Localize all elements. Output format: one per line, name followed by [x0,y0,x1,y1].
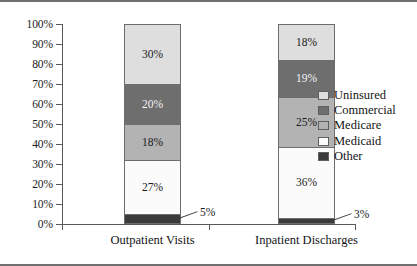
legend-item-label: Medicaid [334,134,381,149]
y-axis-tick [56,204,62,205]
x-axis-tick [355,224,356,230]
y-axis-tick-label: 100% [27,18,53,30]
y-axis-tick-label: 60% [32,98,53,110]
y-axis-tick [56,84,62,85]
y-axis-tick-label: 20% [32,178,53,190]
legend-swatch-icon [318,137,329,146]
bar-segment-value-label: 18% [142,137,163,149]
bar-segment-value-label: 20% [142,99,163,111]
legend-swatch-icon [318,121,329,130]
y-axis-tick-label: 70% [32,78,53,90]
bar-segment-value-label: 19% [296,73,317,85]
legend-item-label: Medicare [334,118,381,133]
y-axis-tick [56,24,62,25]
y-axis-tick-label: 80% [32,58,53,70]
legend-item[interactable]: Uninsured [318,88,396,103]
x-axis-category-label: Outpatient Visits [73,233,233,248]
y-axis-tick [56,144,62,145]
legend-item-label: Uninsured [334,88,386,103]
legend-item[interactable]: Medicare [318,118,396,133]
bar-segment-value-label: 36% [296,177,317,189]
y-axis-tick-label: 30% [32,158,53,170]
y-axis-tick-label: 10% [32,198,53,210]
y-axis-tick [56,104,62,105]
legend-swatch-icon [318,152,329,161]
legend-item-label: Other [334,149,362,164]
bar-segment-uninsured[interactable]: 18% [278,24,335,60]
legend-item[interactable]: Medicaid [318,134,396,149]
y-axis-tick [56,124,62,125]
bar-segment-value-label: 18% [296,37,317,49]
bar-segment-commercial[interactable]: 20% [124,84,181,124]
y-axis-tick [56,164,62,165]
bar-segment-medicaid[interactable]: 27% [124,160,181,214]
x-axis-category-label: Inpatient Discharges [227,233,387,248]
stacked-bar[interactable]: 27%18%20%30% [124,24,181,224]
y-axis-tick-label: 0% [38,218,53,230]
legend-item[interactable]: Other [318,149,396,164]
bar-segment-callout-label: 5% [200,206,215,218]
y-axis-tick-label: 50% [32,118,53,130]
x-axis-tick [62,224,63,230]
y-axis-tick [56,44,62,45]
legend-swatch-icon [318,91,329,100]
bar-segment-value-label: 25% [296,117,317,129]
y-axis-tick-label: 90% [32,38,53,50]
y-axis-tick [56,64,62,65]
legend-item[interactable]: Commercial [318,103,396,118]
bar-segment-value-label: 27% [142,182,163,194]
x-axis-tick [209,224,210,230]
bar-segment-callout-label: 3% [354,208,369,220]
bar-segment-value-label: 30% [142,49,163,61]
bar-segment-uninsured[interactable]: 30% [124,24,181,84]
chart-legend: UninsuredCommercialMedicareMedicaidOther [318,88,396,164]
y-axis-tick-label: 40% [32,138,53,150]
plot-area: 0%10%20%30%40%50%60%70%80%90%100% 27%18%… [62,24,355,224]
chart-figure: 0%10%20%30%40%50%60%70%80%90%100% 27%18%… [0,0,417,266]
legend-item-label: Commercial [334,103,396,118]
y-axis-tick [56,184,62,185]
legend-swatch-icon [318,106,329,115]
bar-segment-medicare[interactable]: 18% [124,124,181,160]
